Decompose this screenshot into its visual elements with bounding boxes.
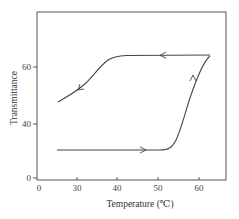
hysteresis-chart: 60 40 0 0 30 40 50 60 Temperature (℃) Tr… — [0, 0, 239, 219]
x-tick-label-40: 40 — [113, 183, 123, 193]
arrow-up-icon — [190, 75, 196, 81]
x-tick-label-50: 50 — [154, 183, 164, 193]
x-axis-title: Temperature (℃) — [106, 199, 173, 210]
heating-curve — [57, 56, 210, 150]
y-tick-label-0: 0 — [27, 173, 32, 183]
x-tick-label-30: 30 — [73, 183, 83, 193]
x-tick-label-60: 60 — [195, 183, 205, 193]
y-axis-title: Transmittance — [9, 71, 19, 125]
y-tick-label-60: 60 — [22, 62, 32, 72]
cooling-curve — [58, 55, 210, 102]
plot-frame — [37, 12, 226, 180]
x-tick-label-0: 0 — [37, 183, 42, 193]
y-tick-label-40: 40 — [22, 119, 32, 129]
